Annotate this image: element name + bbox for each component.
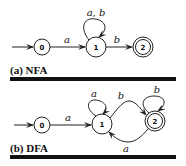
dfa-edge-1-2-label: b (118, 90, 124, 101)
dfa-self-loop-2 (143, 96, 164, 113)
nfa-state-0: 0 (34, 39, 50, 55)
dfa-self-loop-2-label: b (154, 84, 160, 95)
dfa-edge-2-1-label: a (123, 143, 129, 154)
automata-diagram: 0 a 1 a, b b 2 (a) NFA 0 (0, 0, 186, 166)
dfa-edge-1-2 (110, 101, 146, 118)
nfa-edge-1-2-label: b (114, 34, 120, 45)
svg-text:2: 2 (153, 118, 158, 126)
dfa-edge-2-1 (109, 129, 148, 142)
svg-text:1: 1 (100, 121, 105, 129)
dfa-divider (10, 155, 176, 159)
dfa-self-loop-1-label: a (91, 88, 97, 99)
svg-text:2: 2 (141, 44, 146, 52)
dfa-state-0: 0 (34, 117, 50, 133)
svg-text:0: 0 (40, 44, 45, 52)
nfa-panel: 0 a 1 a, b b 2 (a) NFA (10, 7, 176, 81)
dfa-caption: (b) DFA (10, 142, 48, 155)
svg-text:0: 0 (40, 122, 45, 130)
dfa-self-loop-1 (88, 100, 106, 116)
dfa-state-1: 1 (92, 114, 112, 134)
nfa-edge-0-1-label: a (64, 34, 70, 45)
svg-text:1: 1 (94, 44, 99, 52)
nfa-divider (10, 77, 176, 81)
dfa-panel: 0 a 1 a b 2 b a (b) DFA (10, 84, 176, 159)
dfa-edge-0-1-label: a (65, 112, 71, 123)
dfa-state-2: 2 (145, 111, 165, 131)
nfa-state-2: 2 (133, 37, 153, 57)
nfa-self-loop-1-label: a, b (87, 7, 106, 18)
nfa-caption: (a) NFA (10, 64, 47, 77)
